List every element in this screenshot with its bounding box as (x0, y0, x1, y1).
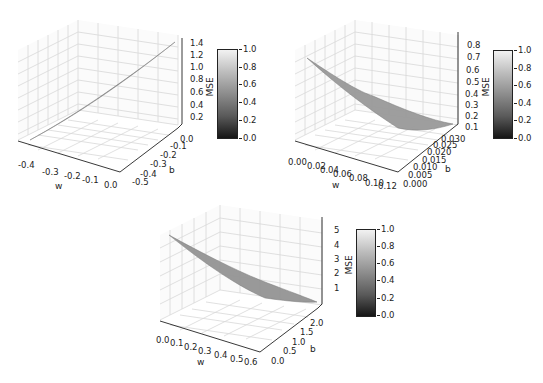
svg-text:0.7: 0.7 (467, 52, 481, 62)
plot-1-y-ticks: -0.5 -0.4 -0.3 -0.2 -0.1 0.0 (132, 134, 194, 187)
svg-text:0.2: 0.2 (190, 112, 204, 122)
plot-1-x-ticks: -0.4 -0.3 -0.2 -0.1 0.0 (18, 160, 118, 190)
plot-1-z-ticks: 1.4 1.2 1.0 0.8 0.6 0.4 0.2 (190, 38, 204, 122)
svg-text:0.4: 0.4 (465, 89, 479, 99)
surface-plot-3: 5 4 3 2 1 0.0 0.1 0.2 0.3 0.4 0.5 0.6 w … (140, 190, 420, 383)
svg-text:0.8: 0.8 (467, 40, 481, 50)
plot-2-x-ticks: 0.00 0.02 0.04 0.06 0.08 0.10 0.12 (288, 157, 397, 191)
svg-text:1.5: 1.5 (300, 327, 314, 337)
svg-text:-0.2: -0.2 (64, 171, 81, 181)
plot-1-colorbar-label: MSE (205, 77, 215, 96)
svg-text:0.030: 0.030 (441, 134, 465, 144)
plot-3-ylabel: b (310, 344, 316, 354)
plot-3-colorbar (356, 229, 376, 317)
svg-text:0.3: 0.3 (465, 100, 479, 110)
svg-text:-0.4: -0.4 (140, 169, 157, 179)
svg-text:0.00: 0.00 (288, 157, 307, 167)
plot-1-ylabel: b (169, 165, 175, 175)
plot-3-axes: 5 4 3 2 1 0.0 0.1 0.2 0.3 0.4 0.5 0.6 w … (140, 190, 420, 383)
svg-text:1.4: 1.4 (190, 38, 204, 48)
svg-text:0.5: 0.5 (283, 346, 297, 356)
plot-2-xlabel: w (332, 180, 339, 190)
svg-text:-0.4: -0.4 (18, 160, 35, 170)
svg-text:0.6: 0.6 (466, 65, 480, 75)
plot-3-colorbar-label: MSE (344, 255, 354, 274)
svg-text:0.5: 0.5 (230, 354, 244, 364)
svg-text:0.1: 0.1 (170, 338, 184, 348)
svg-text:0.0: 0.0 (104, 180, 118, 190)
surface-plot-2: 0.8 0.7 0.6 0.5 0.4 0.3 0.2 0.1 0.00 0.0… (270, 0, 543, 195)
plot-2-y-ticks: 0.000 0.005 0.010 0.015 0.020 0.025 0.03… (403, 134, 465, 189)
svg-text:1.2: 1.2 (190, 50, 204, 60)
plot-1-colorbar (217, 49, 238, 139)
plot-2-z-ticks: 0.8 0.7 0.6 0.5 0.4 0.3 0.2 0.1 (465, 40, 481, 132)
svg-text:-0.2: -0.2 (160, 150, 177, 160)
svg-text:-0.3: -0.3 (42, 167, 59, 177)
svg-text:0.2: 0.2 (184, 342, 198, 352)
svg-text:0.1: 0.1 (465, 122, 479, 132)
svg-text:0.2: 0.2 (465, 111, 479, 121)
svg-text:4: 4 (334, 240, 339, 250)
svg-text:0.3: 0.3 (198, 346, 212, 356)
svg-text:1.0: 1.0 (292, 337, 306, 347)
svg-text:0.4: 0.4 (214, 350, 228, 360)
svg-text:0.0: 0.0 (180, 134, 194, 144)
svg-text:0.0: 0.0 (271, 356, 285, 366)
svg-text:0.6: 0.6 (190, 87, 204, 97)
plot-2-colorbar (493, 50, 513, 139)
svg-text:3: 3 (334, 254, 339, 264)
svg-text:2: 2 (334, 268, 339, 278)
plot-3-x-ticks: 0.0 0.1 0.2 0.3 0.4 0.5 0.6 (156, 335, 258, 367)
plot-3-z-ticks: 5 4 3 2 1 (334, 225, 339, 293)
svg-text:0.000: 0.000 (403, 179, 427, 189)
svg-text:0.4: 0.4 (190, 100, 204, 110)
svg-text:0.0: 0.0 (156, 335, 170, 345)
svg-text:0.5: 0.5 (466, 77, 480, 87)
svg-text:1: 1 (334, 283, 339, 293)
svg-text:0.6: 0.6 (244, 357, 258, 367)
plot-1-xlabel: w (55, 181, 62, 191)
svg-text:5: 5 (334, 225, 339, 235)
svg-text:2.0: 2.0 (310, 318, 324, 328)
svg-text:-0.3: -0.3 (150, 159, 167, 169)
plot-3-y-ticks: 0.0 0.5 1.0 1.5 2.0 (271, 318, 324, 366)
svg-text:0.8: 0.8 (190, 74, 204, 84)
plot-2-colorbar-label: MSE (481, 77, 491, 96)
plot-2-ylabel: b (445, 164, 451, 174)
surface-plot-1: 1.4 1.2 1.0 0.8 0.6 0.4 0.2 -0.4 -0.3 -0… (0, 0, 270, 195)
plot-3-xlabel: w (197, 357, 204, 367)
svg-text:-0.1: -0.1 (82, 175, 99, 185)
svg-text:1.0: 1.0 (190, 62, 204, 72)
